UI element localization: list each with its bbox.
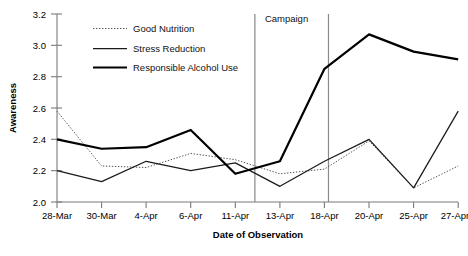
x-axis-tick-labels: 28-Mar 30-Mar 4-Apr 6-Apr 11-Apr 13-Apr … <box>42 210 468 221</box>
x-axis-ticks <box>57 202 458 208</box>
x-tick-label: 30-Mar <box>87 210 117 221</box>
y-axis-tick-labels: 2.0 2.2 2.4 2.6 2.8 3.0 3.2 <box>33 9 46 208</box>
campaign-label: Campaign <box>265 13 308 24</box>
y-tick-label: 2.6 <box>33 103 46 114</box>
x-tick-label: 28-Mar <box>42 210 72 221</box>
series-lines <box>57 34 458 188</box>
x-axis-title: Date of Observation <box>213 229 303 240</box>
legend: Good Nutrition Stress Reduction Responsi… <box>93 23 238 73</box>
series-line-responsible-alcohol-use <box>57 34 458 173</box>
y-axis-title: Awareness <box>7 83 18 133</box>
legend-label-stress-reduction: Stress Reduction <box>133 43 205 54</box>
series-line-good-nutrition <box>57 111 458 188</box>
x-tick-label: 6-Apr <box>179 210 202 221</box>
x-tick-label: 25-Apr <box>399 210 428 221</box>
y-tick-label: 2.4 <box>33 134 46 145</box>
chart-svg: 2.0 2.2 2.4 2.6 2.8 3.0 3.2 28-Mar 30-Ma… <box>0 0 468 256</box>
x-tick-label: 11-Apr <box>221 210 249 221</box>
awareness-line-chart: 2.0 2.2 2.4 2.6 2.8 3.0 3.2 28-Mar 30-Ma… <box>0 0 468 256</box>
series-line-stress-reduction <box>57 111 458 188</box>
x-tick-label: 18-Apr <box>310 210 339 221</box>
x-tick-label: 4-Apr <box>134 210 157 221</box>
legend-label-responsible-alcohol-use: Responsible Alcohol Use <box>133 62 238 73</box>
campaign-annotation: Campaign <box>255 13 329 202</box>
legend-label-good-nutrition: Good Nutrition <box>133 23 194 34</box>
plot-frame <box>57 14 458 202</box>
x-tick-label: 27-Apr <box>441 210 468 221</box>
x-tick-label: 13-Apr <box>266 210 295 221</box>
x-tick-label: 20-Apr <box>355 210 384 221</box>
y-tick-label: 2.0 <box>33 197 46 208</box>
y-tick-label: 3.2 <box>33 9 46 20</box>
y-tick-label: 2.2 <box>33 165 46 176</box>
y-tick-label: 2.8 <box>33 71 46 82</box>
y-tick-label: 3.0 <box>33 40 46 51</box>
